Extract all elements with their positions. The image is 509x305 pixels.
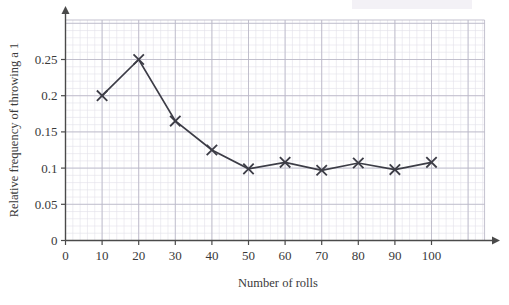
x-tick-label: 40 [205,248,218,263]
x-tick-label: 90 [388,248,401,263]
x-tick-label: 30 [169,248,182,263]
y-tick-label: 0.1 [41,161,57,176]
y-tick-label: 0.15 [35,124,58,139]
faint-top-smudge [352,0,472,9]
x-tick-label: 20 [132,248,145,263]
x-tick-label: 100 [422,248,442,263]
y-tick-label: 0.25 [35,52,58,67]
x-tick-label: 80 [352,248,365,263]
x-tick-label: 60 [279,248,292,263]
y-tick-label: 0 [51,233,58,248]
y-tick-label: 0.05 [35,197,58,212]
relative-frequency-line-chart: 00.050.10.150.20.25 01020304050607080901… [0,0,509,305]
chart-page: 00.050.10.150.20.25 01020304050607080901… [0,0,509,305]
x-tick-label: 10 [96,248,109,263]
x-tick-label: 0 [62,248,69,263]
x-tick-label: 50 [242,248,255,263]
y-axis-title: Relative frequency of throwing a 1 [7,43,21,218]
y-tick-label: 0.2 [41,88,57,103]
x-tick-label: 70 [315,248,328,263]
x-axis-title: Number of rolls [238,276,318,290]
